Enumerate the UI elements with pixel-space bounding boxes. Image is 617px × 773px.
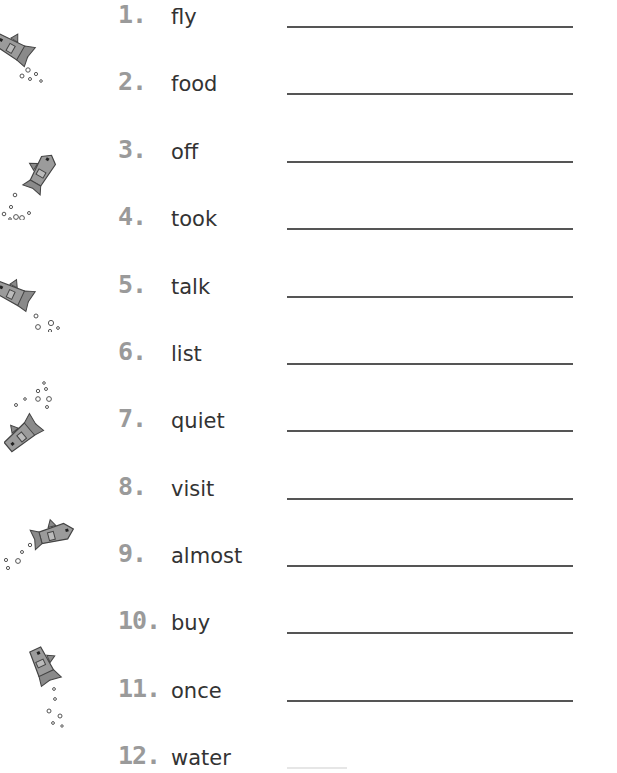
word-row-11: 11. once xyxy=(0,674,617,714)
spelling-word: fly xyxy=(171,3,197,31)
answer-line[interactable] xyxy=(287,93,573,95)
item-number: 3. xyxy=(118,135,146,165)
answer-line[interactable] xyxy=(287,296,573,298)
answer-line[interactable] xyxy=(287,161,573,163)
word-row-1: 1. fly xyxy=(0,0,617,40)
spelling-word: off xyxy=(171,138,198,166)
answer-line[interactable] xyxy=(287,228,573,230)
fish-icon xyxy=(26,642,70,734)
item-number: 12. xyxy=(118,741,160,771)
spelling-word: once xyxy=(171,677,222,705)
spelling-word: food xyxy=(171,70,217,98)
spelling-word: water xyxy=(171,744,231,772)
word-row-6: 6. list xyxy=(0,337,617,377)
item-number: 2. xyxy=(118,67,146,97)
item-number: 10. xyxy=(118,606,160,636)
spelling-word: visit xyxy=(171,475,214,503)
word-row-8: 8. visit xyxy=(0,472,617,512)
word-row-4: 4. took xyxy=(0,202,617,242)
item-number: 4. xyxy=(118,202,146,232)
fish-icon xyxy=(0,30,56,86)
word-row-9: 9. almost xyxy=(0,539,617,579)
answer-line[interactable] xyxy=(287,430,573,432)
item-number: 5. xyxy=(118,270,146,300)
answer-line[interactable] xyxy=(287,565,573,567)
answer-line[interactable] xyxy=(287,700,573,702)
answer-line[interactable] xyxy=(287,498,573,500)
word-row-12: 12. water xyxy=(0,741,617,773)
word-row-3: 3. off xyxy=(0,135,617,175)
spelling-word: talk xyxy=(171,273,210,301)
item-number: 6. xyxy=(118,337,146,367)
item-number: 8. xyxy=(118,472,146,502)
answer-line[interactable] xyxy=(287,767,347,769)
fish-icon xyxy=(0,518,80,578)
item-number: 11. xyxy=(118,674,160,704)
word-row-5: 5. talk xyxy=(0,270,617,310)
fish-icon xyxy=(0,150,68,220)
spelling-word: took xyxy=(171,205,217,233)
answer-line[interactable] xyxy=(287,26,573,28)
item-number: 7. xyxy=(118,404,146,434)
spelling-word: quiet xyxy=(171,407,225,435)
answer-line[interactable] xyxy=(287,363,573,365)
item-number: 1. xyxy=(118,0,146,30)
item-number: 9. xyxy=(118,539,146,569)
answer-line[interactable] xyxy=(287,632,573,634)
word-row-10: 10. buy xyxy=(0,606,617,646)
spelling-word: almost xyxy=(171,542,242,570)
spelling-word: list xyxy=(171,340,202,368)
spelling-word: buy xyxy=(171,609,210,637)
word-row-7: 7. quiet xyxy=(0,404,617,444)
fish-icon xyxy=(0,278,62,332)
word-row-2: 2. food xyxy=(0,67,617,107)
fish-icon xyxy=(4,380,64,456)
